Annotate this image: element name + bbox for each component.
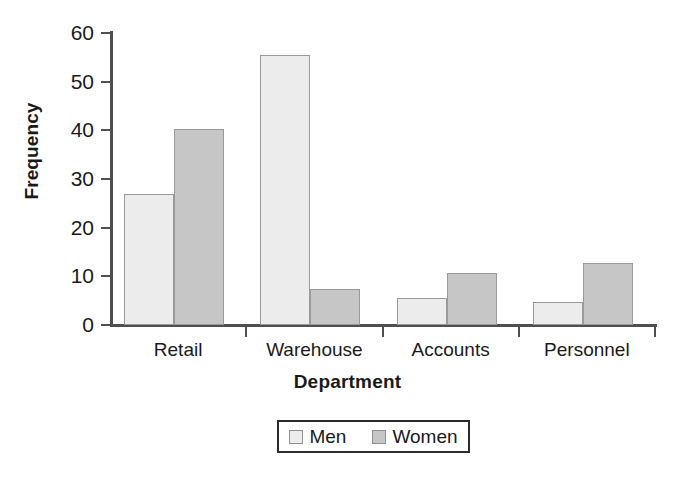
bar-personnel-men bbox=[533, 302, 583, 325]
y-axis-tick bbox=[101, 178, 110, 180]
x-axis-title: Department bbox=[0, 371, 695, 393]
y-axis-tick-label: 20 bbox=[46, 217, 94, 238]
x-axis-label-warehouse: Warehouse bbox=[246, 339, 382, 361]
bar-retail-women bbox=[174, 129, 224, 325]
legend: Men Women bbox=[277, 420, 470, 453]
x-axis-label-retail: Retail bbox=[110, 339, 246, 361]
y-axis-tick bbox=[101, 227, 110, 229]
y-axis-tick bbox=[101, 275, 110, 277]
legend-item-women[interactable]: Women bbox=[372, 427, 457, 446]
x-axis-tick bbox=[382, 327, 384, 337]
bar-chart: Frequency 0102030405060 RetailWarehouseA… bbox=[0, 0, 695, 485]
x-axis-tick bbox=[654, 327, 656, 337]
y-axis-tick-label: 60 bbox=[46, 22, 94, 43]
x-axis-label-personnel: Personnel bbox=[519, 339, 655, 361]
y-axis-tick bbox=[101, 324, 110, 326]
legend-label-women: Women bbox=[392, 427, 457, 446]
y-axis-tick-label: 10 bbox=[46, 265, 94, 286]
bar-accounts-men bbox=[397, 298, 447, 325]
legend-swatch-women-icon bbox=[372, 430, 386, 444]
x-axis-tick bbox=[245, 327, 247, 337]
bar-personnel-women bbox=[583, 263, 633, 325]
bar-warehouse-men bbox=[260, 55, 310, 325]
y-axis-line bbox=[110, 31, 113, 327]
y-axis-tick-label: 30 bbox=[46, 168, 94, 189]
legend-item-men[interactable]: Men bbox=[289, 427, 346, 446]
y-axis-title: Frequency bbox=[21, 81, 43, 221]
legend-swatch-men-icon bbox=[289, 430, 303, 444]
y-axis-tick bbox=[101, 81, 110, 83]
x-axis-tick bbox=[518, 327, 520, 337]
y-axis-tick bbox=[101, 32, 110, 34]
bar-retail-men bbox=[124, 194, 174, 325]
x-axis-label-accounts: Accounts bbox=[383, 339, 519, 361]
y-axis-tick bbox=[101, 129, 110, 131]
bar-warehouse-women bbox=[310, 289, 360, 326]
y-axis-tick-label: 0 bbox=[46, 314, 94, 335]
y-axis-tick-label: 50 bbox=[46, 71, 94, 92]
legend-label-men: Men bbox=[309, 427, 346, 446]
bar-accounts-women bbox=[447, 273, 497, 325]
y-axis-tick-label: 40 bbox=[46, 119, 94, 140]
